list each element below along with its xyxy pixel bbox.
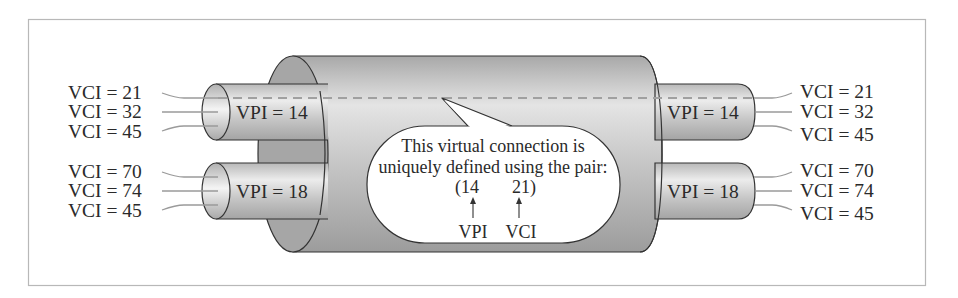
vpi-vci-diagram: VCI = 21 VCI = 32 VCI = 45 VCI = 70 VCI … (0, 0, 958, 298)
right-vci-label: VCI = 74 (800, 180, 874, 201)
left-vci-label: VCI = 21 (68, 82, 142, 103)
right-vpi-label: VPI = 14 (667, 102, 739, 123)
left-vci-label: VCI = 74 (68, 180, 142, 201)
callout-pair-vpi: (14 (455, 177, 479, 198)
right-vci-label: VCI = 45 (800, 203, 874, 224)
right-vpi-label: VPI = 18 (667, 181, 739, 202)
right-vci-label: VCI = 45 (800, 124, 874, 145)
right-vci-label: VCI = 70 (800, 160, 874, 181)
callout-line-2: uniquely defined using the pair: (379, 157, 608, 177)
left-vci-label: VCI = 32 (68, 101, 142, 122)
left-vci-label: VCI = 45 (68, 121, 142, 142)
right-vci-label: VCI = 32 (800, 101, 874, 122)
callout-vci-caption: VCI (506, 222, 537, 242)
left-vpi-label: VPI = 18 (236, 181, 308, 202)
callout-pair-vci: 21) (512, 177, 536, 198)
left-vpi-label: VPI = 14 (236, 102, 308, 123)
callout-vpi-caption: VPI (458, 222, 487, 242)
left-vci-label: VCI = 70 (68, 161, 142, 182)
right-vci-label: VCI = 21 (800, 81, 874, 102)
callout-line-1: This virtual connection is (401, 136, 584, 156)
left-vci-label: VCI = 45 (68, 200, 142, 221)
